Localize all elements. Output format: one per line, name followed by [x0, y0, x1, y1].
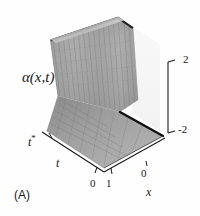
panel-caption: (A) — [14, 188, 30, 202]
t-star-label: t* — [28, 134, 36, 148]
t-axis-tick-label-0: 0 — [90, 178, 96, 189]
value-axis-tick-label-bottom: -2 — [178, 124, 187, 135]
value-axis-label: α(x,t) — [22, 70, 54, 85]
value-axis-tick-label-top: 2 — [183, 54, 189, 65]
value-axis-tick-bottom — [168, 131, 175, 133]
t-axis-label: t — [56, 157, 59, 169]
t-axis-tick-0 — [95, 167, 97, 173]
x-axis-tick-label-0: 0 — [141, 168, 147, 179]
x-axis-tick-label-1: 1 — [106, 178, 112, 189]
surface-plot-canvas — [0, 0, 200, 216]
x-axis-tick-0 — [146, 161, 147, 166]
x-axis-label: x — [146, 186, 151, 198]
x-axis-tick-1 — [111, 168, 112, 174]
value-axis-tick-top — [168, 60, 175, 62]
figure-panel: α(x,t) t* t x 0 1 0 2 -2 (A) — [0, 0, 200, 216]
